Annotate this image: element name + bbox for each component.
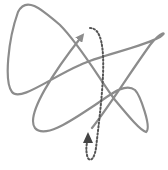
tangled-path-illustration-icon [0,0,168,170]
illustration-canvas: Tangled path with loop-back arrow [0,0,168,170]
loop-back-arrowhead-icon [83,132,93,143]
tangled-path [8,4,164,132]
